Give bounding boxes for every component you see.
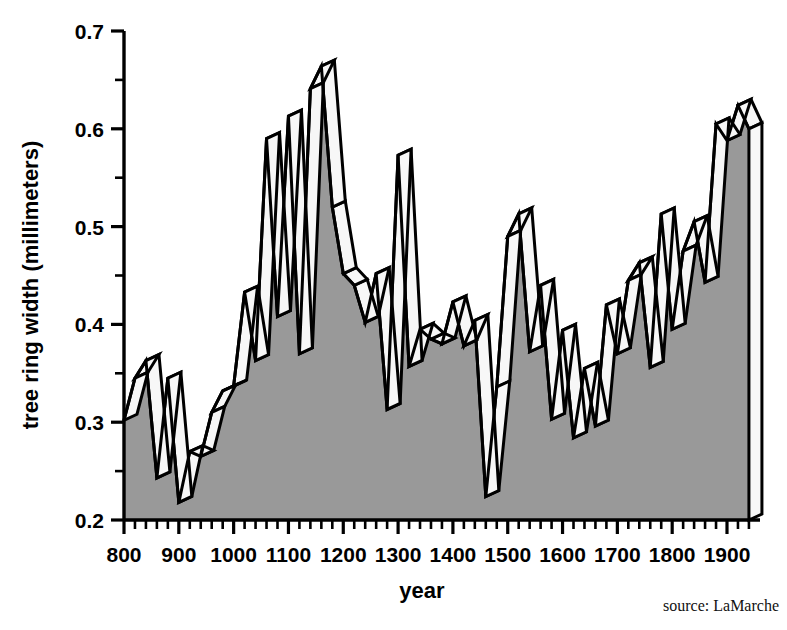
source-note: source: LaMarche: [663, 597, 779, 614]
x-tick-label: 1900: [704, 543, 751, 566]
x-tick-label: 1300: [375, 543, 422, 566]
x-tick-label: 1200: [320, 543, 367, 566]
y-axis-title: tree ring width (millimeters): [18, 141, 43, 430]
y-tick-label: 0.2: [75, 509, 104, 532]
x-axis-title: year: [399, 578, 445, 603]
x-tick-label: 800: [106, 543, 141, 566]
x-tick-label: 1500: [484, 543, 531, 566]
y-tick-label: 0.6: [75, 118, 104, 141]
y-tick-label: 0.5: [75, 216, 105, 239]
x-tick-label: 1800: [649, 543, 696, 566]
x-tick-label: 1000: [210, 543, 257, 566]
y-tick-label: 0.7: [75, 20, 104, 43]
x-tick-label: 1100: [266, 543, 312, 566]
x-tick-label: 1600: [539, 543, 586, 566]
y-tick-label: 0.4: [75, 313, 105, 336]
y-tick-label: 0.3: [75, 411, 104, 434]
ribbon-end-cap: [749, 123, 762, 520]
tree-ring-width-chart: 0.20.30.40.50.60.7 800900100011001200130…: [0, 0, 787, 630]
x-tick-label: 900: [161, 543, 196, 566]
x-tick-label: 1400: [430, 543, 477, 566]
x-tick-label: 1700: [594, 543, 641, 566]
